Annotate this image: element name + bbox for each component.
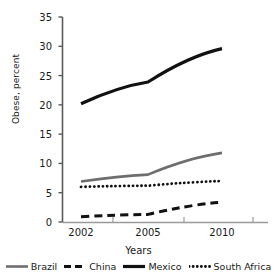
legend-swatch-solid-icon [123,262,145,271]
legend-item-china[interactable]: China [64,261,116,272]
axis-lines [63,17,269,223]
line-chart: Obese, percent 05101520253035 2002200520… [0,0,277,280]
legend-item-mexico[interactable]: Mexico [123,261,181,272]
legend-label: South Africa [214,261,272,272]
data-series-layer [81,49,222,217]
legend-label: China [89,261,116,272]
series-line-mexico [81,49,222,104]
x-axis-label: Years [0,245,277,256]
series-line-china [81,202,222,217]
legend-item-south-africa[interactable]: South Africa [189,261,272,272]
x-tick-label: 2005 [126,227,170,238]
legend-swatch-dashed-icon [64,262,86,271]
legend-item-brazil[interactable]: Brazil [6,261,58,272]
x-tick-label: 2002 [59,227,103,238]
legend-label: Brazil [31,261,58,272]
x-tick-marks [113,217,253,222]
plot-area [0,0,277,280]
x-tick-label: 2010 [200,227,244,238]
legend-swatch-dotted-icon [189,262,211,271]
legend-label: Mexico [148,261,181,272]
chart-legend: BrazilChinaMexicoSouth Africa [0,261,277,272]
legend-swatch-solid-icon [6,262,28,271]
series-line-brazil [81,153,222,182]
series-line-south-africa [81,181,222,187]
